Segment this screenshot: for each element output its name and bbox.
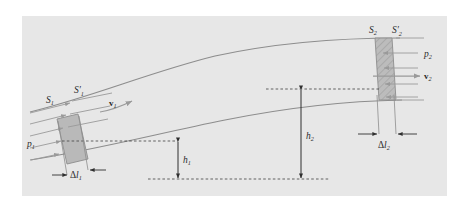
bernoulli-flow-diagram: S1 S′1 p1 v1 Δl1 h1 h2 S2 S′2: [0, 0, 469, 212]
figure-root: S1 S′1 p1 v1 Δl1 h1 h2 S2 S′2: [0, 0, 469, 212]
outlet-fluid-element: [375, 38, 396, 100]
